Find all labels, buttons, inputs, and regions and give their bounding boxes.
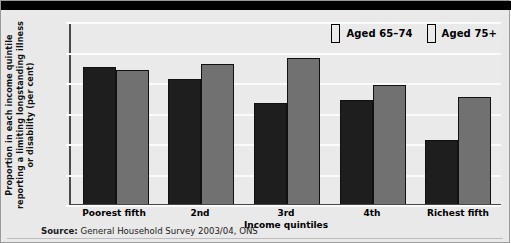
bar xyxy=(116,70,149,204)
bar-group xyxy=(254,23,320,204)
legend-item-aged-65-74: Aged 65–74 xyxy=(331,24,412,43)
bar-group xyxy=(425,23,491,204)
bar-group xyxy=(83,23,149,204)
bar-groups xyxy=(73,23,501,204)
bar-group xyxy=(340,23,406,204)
bar xyxy=(287,58,320,204)
y-axis-tick-mark xyxy=(66,144,71,146)
legend-swatch-aged-65-74 xyxy=(331,24,340,43)
y-axis-title: Proportion in each income quintile repor… xyxy=(4,19,36,211)
legend-label-aged-75-plus: Aged 75+ xyxy=(442,28,497,39)
bar-group xyxy=(168,23,234,204)
y-axis-tick-mark xyxy=(66,83,71,85)
legend-label-aged-65-74: Aged 65–74 xyxy=(346,28,412,39)
y-axis-tick-mark xyxy=(66,205,71,207)
source-note: Source: General Household Survey 2003/04… xyxy=(41,226,258,236)
bar xyxy=(201,64,234,204)
bar xyxy=(458,97,491,204)
y-axis-tick-mark xyxy=(66,114,71,116)
bar xyxy=(254,103,287,204)
source-text: General Household Survey 2003/04, ONS xyxy=(81,226,258,236)
bar xyxy=(425,140,458,204)
legend-swatch-aged-75-plus xyxy=(427,24,436,43)
y-axis-tick-mark xyxy=(66,53,71,55)
header-band xyxy=(1,1,511,10)
chart-legend: Aged 65–74 Aged 75+ xyxy=(331,24,497,43)
y-axis-tick-mark xyxy=(66,175,71,177)
source-prefix: Source: xyxy=(41,226,78,236)
gridline xyxy=(71,205,501,207)
bar xyxy=(168,79,201,204)
bar xyxy=(83,67,116,204)
bar xyxy=(340,100,373,204)
legend-item-aged-75-plus: Aged 75+ xyxy=(427,24,497,43)
plot-area: 0102030405060 xyxy=(69,23,501,206)
y-axis-tick-mark xyxy=(66,22,71,24)
y-axis-title-wrap: Proportion in each income quintile repor… xyxy=(5,17,35,212)
bottom-divider xyxy=(7,238,503,239)
bar xyxy=(373,85,406,204)
